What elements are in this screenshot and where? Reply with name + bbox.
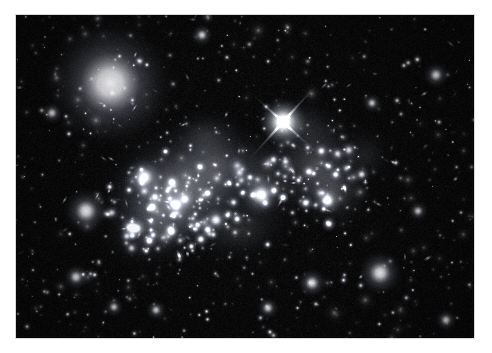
astronomy-photo-frame <box>16 15 474 338</box>
galaxy-cluster-sky-canvas <box>16 15 474 338</box>
image-page <box>0 0 492 353</box>
